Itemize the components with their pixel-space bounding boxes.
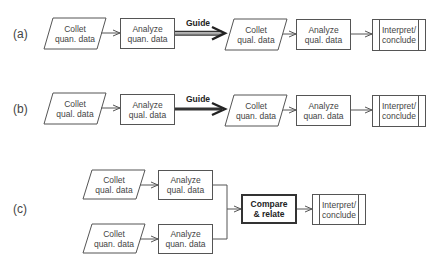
- node-text: & relate: [251, 209, 288, 219]
- node-text: qual. data: [237, 35, 274, 45]
- interpret-conclude-node: Interpret/conclude: [372, 95, 426, 127]
- node-text: Analyze: [305, 25, 342, 35]
- node-text: quan. data: [94, 239, 134, 249]
- node-text: Analyze: [165, 229, 205, 239]
- collect-qual-data-node: Colletqual. data: [229, 19, 283, 50]
- collect-quan-data-node: Colletquan. data: [87, 224, 141, 253]
- node-text: conclude: [382, 35, 416, 45]
- node-text: quan. data: [127, 34, 167, 44]
- node-text: conclude: [322, 210, 356, 220]
- analyze-quan-data-node: Analyzequan. data: [158, 224, 213, 254]
- interpret-conclude-node: Interpret/conclude: [372, 19, 426, 51]
- guide-label-b: Guide: [186, 94, 210, 104]
- analyze-qual-data-node: Analyzequal. data: [158, 170, 213, 200]
- analyze-quan-data-node: Analyzequan. data: [120, 18, 175, 49]
- collect-quan-data-node: Colletquan. data: [229, 95, 283, 126]
- compare-relate-node: Compare& relate: [241, 194, 297, 224]
- node-text: qual. data: [129, 110, 166, 120]
- collect-quan-data-node: Colletquan. data: [48, 18, 102, 49]
- row-label-b: (b): [13, 102, 28, 116]
- node-text: quan. data: [55, 34, 95, 44]
- node-text: Analyze: [127, 24, 167, 34]
- row-label-a: (a): [13, 27, 28, 41]
- collect-qual-data-node: Colletqual. data: [48, 93, 102, 124]
- interpret-conclude-node: Interpret/conclude: [312, 194, 366, 225]
- node-text: Collet: [56, 99, 93, 109]
- collect-qual-data-node: Colletqual. data: [87, 170, 141, 199]
- node-text: qual. data: [305, 35, 342, 45]
- row-label-c: (c): [13, 202, 27, 216]
- node-text: Collet: [94, 229, 134, 239]
- node-text: quan. data: [236, 111, 276, 121]
- node-text: qual. data: [167, 185, 204, 195]
- node-text: quan. data: [165, 239, 205, 249]
- guide-arrow-solid: [174, 103, 225, 115]
- node-text: Analyze: [129, 100, 166, 110]
- node-text: Collet: [236, 101, 276, 111]
- analyze-qual-data-node: Analyzequal. data: [296, 19, 351, 50]
- node-text: Interpret/: [322, 200, 356, 210]
- node-text: conclude: [382, 111, 416, 121]
- node-text: qual. data: [56, 109, 93, 119]
- node-text: qual. data: [95, 185, 132, 195]
- node-text: Collet: [237, 25, 274, 35]
- guide-label-a: Guide: [186, 18, 210, 28]
- node-text: Interpret/: [382, 25, 416, 35]
- node-text: Analyze: [167, 175, 204, 185]
- node-text: Collet: [95, 175, 132, 185]
- node-text: quan. data: [303, 111, 343, 121]
- guide-arrow-hollow: [174, 27, 225, 40]
- node-text: Compare: [251, 199, 288, 209]
- analyze-quan-data-node: Analyzequan. data: [296, 95, 351, 126]
- node-text: Analyze: [303, 101, 343, 111]
- node-text: Collet: [55, 24, 95, 34]
- node-text: Interpret/: [382, 101, 416, 111]
- analyze-qual-data-node: Analyzequal. data: [120, 94, 175, 125]
